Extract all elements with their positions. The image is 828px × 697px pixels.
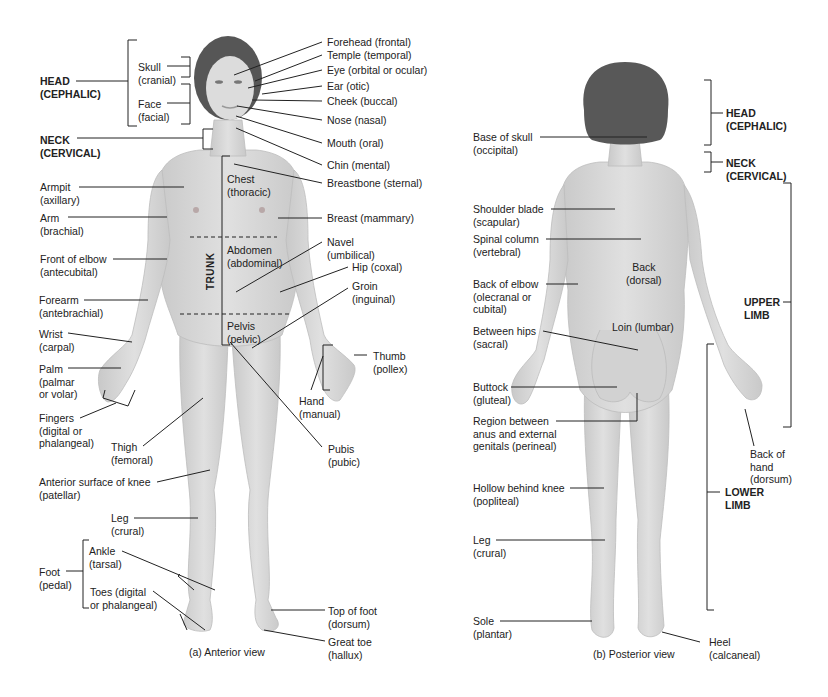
label-chin: Chin (mental) (327, 159, 390, 172)
label-buttock: Buttock (gluteal) (473, 381, 511, 406)
label-navel: Navel (umbilical) (327, 236, 375, 261)
label-ankle: Ankle (tarsal) (89, 545, 122, 570)
label-mouth: Mouth (oral) (327, 137, 384, 150)
label-back-of-hand: Back of hand (dorsum) (750, 448, 792, 486)
label-back-of-elbow: Back of elbow (olecranal or cubital) (473, 278, 538, 316)
label-hip: Hip (coxal) (352, 261, 402, 274)
label-thumb: Thumb (pollex) (373, 350, 407, 375)
label-perineal: Region between anus and external genital… (473, 415, 556, 453)
label-knee: Anterior surface of knee (patellar) (39, 476, 150, 501)
label-breastbone: Breastbone (sternal) (327, 177, 422, 190)
label-temple: Temple (temporal) (327, 49, 412, 62)
label-shoulder-blade: Shoulder blade (scapular) (473, 203, 544, 228)
label-popliteal: Hollow behind knee (popliteal) (473, 482, 565, 507)
label-neck-posterior: NECK (CERVICAL) (726, 157, 786, 182)
label-head-posterior: HEAD (CEPHALIC) (726, 107, 787, 132)
label-skull: Skull (cranial) (138, 61, 176, 86)
posterior-head (583, 62, 668, 145)
caption-posterior: (b) Posterior view (593, 648, 675, 660)
label-upper-limb: UPPER LIMB (744, 296, 780, 321)
posterior-figure (512, 130, 762, 637)
label-pubis: Pubis (pubic) (328, 443, 360, 468)
label-top-of-foot: Top of foot (dorsum) (328, 605, 377, 630)
label-foot: Foot (pedal) (39, 566, 72, 591)
label-great-toe: Great toe (hallux) (328, 636, 372, 661)
label-armpit: Armpit (axillary) (40, 181, 80, 206)
label-neck: NECK (CERVICAL) (40, 134, 100, 159)
label-front-elbow: Front of elbow (antecubital) (40, 253, 107, 278)
label-pelvis: Pelvis (pelvic) (227, 320, 261, 345)
label-cheek: Cheek (buccal) (327, 95, 398, 108)
label-spinal-column: Spinal column (vertebral) (473, 233, 539, 258)
label-breast: Breast (mammary) (327, 212, 414, 225)
label-toes: Toes (digital or phalangeal) (90, 586, 157, 611)
label-between-hips: Between hips (sacral) (473, 325, 536, 350)
label-trunk: TRUNK (205, 253, 216, 291)
label-heel: Heel (calcaneal) (709, 636, 760, 661)
label-eye: Eye (orbital or ocular) (327, 64, 427, 77)
label-hand: Hand (manual) (299, 395, 340, 420)
label-palm: Palm (palmar or volar) (39, 363, 78, 401)
label-lower-limb: LOWER LIMB (725, 486, 764, 511)
label-forehead: Forehead (frontal) (327, 36, 411, 49)
caption-anterior: (a) Anterior view (189, 646, 265, 658)
label-fingers: Fingers (digital or phalangeal) (39, 412, 94, 450)
label-groin: Groin (inguinal) (352, 280, 395, 305)
label-loin: Loin (lumbar) (612, 321, 674, 334)
label-base-of-skull: Base of skull (occipital) (473, 131, 533, 156)
label-back: Back (dorsal) (626, 261, 662, 286)
body-regions-diagram: HEAD (CEPHALIC) NECK (CERVICAL) Skull (c… (0, 0, 828, 697)
label-abdomen: Abdomen (abdominal) (227, 244, 282, 269)
label-leg-anterior: Leg (crural) (111, 512, 144, 537)
label-arm: Arm (brachial) (40, 212, 84, 237)
label-face: Face (facial) (138, 98, 170, 123)
label-ear: Ear (otic) (327, 80, 370, 93)
label-leg-posterior: Leg (crural) (473, 534, 506, 559)
label-thigh: Thigh (femoral) (111, 441, 153, 466)
label-head: HEAD (CEPHALIC) (40, 75, 101, 100)
label-wrist: Wrist (carpal) (39, 328, 75, 353)
label-sole: Sole (plantar) (473, 615, 512, 640)
label-chest: Chest (thoracic) (227, 173, 271, 198)
label-forearm: Forearm (antebrachial) (39, 294, 103, 319)
label-nose: Nose (nasal) (327, 114, 387, 127)
